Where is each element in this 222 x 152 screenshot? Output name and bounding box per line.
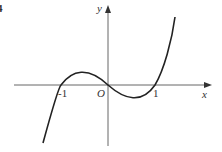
tick-label-1: 1 (153, 87, 159, 99)
tick-label-neg1: -1 (58, 87, 67, 99)
x-axis-label: x (201, 88, 207, 100)
y-axis-label: y (96, 2, 102, 14)
cubic-curve (43, 17, 175, 143)
origin-label: O (97, 87, 105, 99)
figure-number: 4 (0, 2, 3, 14)
y-axis-arrow-icon (105, 5, 111, 13)
cubic-graph: 4 x y O -1 1 (0, 0, 222, 152)
